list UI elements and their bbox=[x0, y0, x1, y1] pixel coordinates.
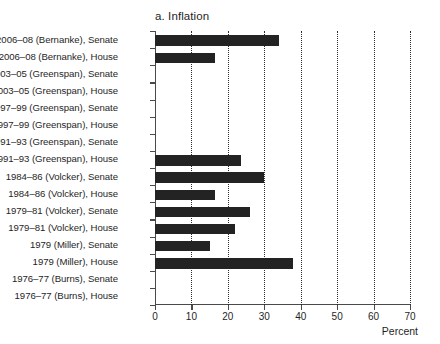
bar bbox=[155, 207, 250, 218]
y-axis-tick bbox=[150, 134, 155, 135]
x-axis-tick-label: 50 bbox=[332, 311, 343, 322]
y-axis-tick bbox=[150, 65, 155, 66]
x-axis-tick bbox=[337, 305, 338, 310]
y-axis-tick-label: 1976–77 (Burns), House bbox=[0, 290, 118, 301]
y-axis-tick bbox=[150, 271, 155, 272]
y-axis-tick-label: 1991–93 (Greenspan), House bbox=[0, 153, 118, 164]
y-axis-tick-label: 1991–93 (Greenspan), Senate bbox=[0, 136, 118, 147]
x-axis-tick bbox=[155, 305, 156, 310]
x-axis-tick-label: 20 bbox=[222, 311, 233, 322]
bar bbox=[155, 224, 235, 235]
x-axis-tick-label: 0 bbox=[152, 311, 158, 322]
chart-title: a. Inflation bbox=[155, 10, 209, 22]
x-axis-tick-label: 10 bbox=[186, 311, 197, 322]
y-axis-tick bbox=[150, 31, 155, 32]
y-axis-tick-label: 1979–81 (Volcker), Senate bbox=[0, 205, 118, 216]
x-axis-tick bbox=[374, 305, 375, 310]
y-axis-tick-label: 1976–77 (Burns), Senate bbox=[0, 273, 118, 284]
y-axis-tick-label: 2003–05 (Greenspan), House bbox=[0, 85, 118, 96]
y-axis-tick bbox=[150, 151, 155, 152]
x-axis-tick bbox=[264, 305, 265, 310]
inflation-bar-chart-figure: a. Inflation 2006–08 (Bernanke), Senate2… bbox=[0, 0, 440, 344]
y-axis-tick bbox=[150, 254, 155, 255]
x-axis-tick bbox=[410, 305, 411, 310]
x-axis-tick-label: 30 bbox=[259, 311, 270, 322]
y-axis-tick-label: 1984–86 (Volcker), House bbox=[0, 188, 118, 199]
y-axis-tick bbox=[150, 237, 155, 238]
y-axis-tick-label: 1997–99 (Greenspan), House bbox=[0, 119, 118, 130]
y-axis-tick-label: 1997–99 (Greenspan), Senate bbox=[0, 102, 118, 113]
y-axis-tick bbox=[150, 117, 155, 118]
y-axis-tick-label: 2006–08 (Bernanke), House bbox=[0, 51, 118, 62]
x-axis-label: Percent bbox=[382, 325, 418, 337]
y-axis-tick-label: 1979 (Miller), Senate bbox=[0, 239, 118, 250]
y-axis-tick-label: 2003–05 (Greenspan), Senate bbox=[0, 68, 118, 79]
bar bbox=[155, 155, 241, 166]
y-axis-tick bbox=[150, 288, 155, 289]
y-axis-tick-label: 1979 (Miller), House bbox=[0, 256, 118, 267]
x-axis-tick bbox=[191, 305, 192, 310]
bar bbox=[155, 241, 210, 252]
plot-area: 2006–08 (Bernanke), Senate2006–08 (Berna… bbox=[155, 31, 410, 305]
y-axis-tick bbox=[150, 185, 155, 186]
bar-row: 1976–77 (Burns), House bbox=[155, 288, 410, 308]
x-axis-tick bbox=[228, 305, 229, 310]
y-axis-tick bbox=[150, 202, 155, 203]
y-axis-tick bbox=[150, 100, 155, 101]
bar bbox=[155, 190, 215, 201]
bar bbox=[155, 35, 279, 46]
y-axis-tick-label: 2006–08 (Bernanke), Senate bbox=[0, 34, 118, 45]
x-axis-tick-label: 70 bbox=[404, 311, 415, 322]
x-axis-tick-label: 60 bbox=[368, 311, 379, 322]
gridline-70 bbox=[410, 31, 411, 305]
y-axis-tick bbox=[150, 48, 155, 49]
x-axis-tick bbox=[301, 305, 302, 310]
bar bbox=[155, 172, 264, 183]
x-axis-tick-label: 40 bbox=[295, 311, 306, 322]
y-axis-tick bbox=[150, 82, 155, 83]
y-axis-tick bbox=[150, 219, 155, 220]
y-axis-tick bbox=[150, 168, 155, 169]
y-axis-tick-label: 1984–86 (Volcker), Senate bbox=[0, 171, 118, 182]
bar bbox=[155, 258, 293, 269]
bar bbox=[155, 53, 215, 64]
y-axis-tick-label: 1979–81 (Volcker), House bbox=[0, 222, 118, 233]
